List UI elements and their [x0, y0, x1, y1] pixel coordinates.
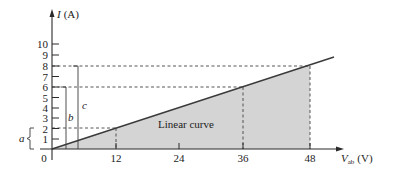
origin-label: 0 [41, 152, 47, 164]
y-tick-label-5: 5 [43, 92, 49, 104]
x-axis-label-unit: (V) [357, 152, 373, 165]
x-tick-label-48: 48 [305, 152, 317, 164]
label-c: c [82, 99, 87, 111]
curve-label: Linear curve [158, 118, 214, 130]
y-tick-label-8: 8 [43, 60, 49, 72]
bracket-c [73, 66, 78, 149]
x-axis-arrow-icon [336, 147, 344, 152]
x-tick-label-36: 36 [238, 152, 250, 164]
bracket-a [27, 128, 34, 149]
y-tick-label-2: 2 [43, 123, 49, 135]
label-a: a [19, 132, 25, 144]
y-tick-label-10: 10 [37, 38, 49, 50]
label-b: b [68, 111, 74, 123]
y-axis-label-unit: (A) [64, 8, 80, 21]
y-ticks [52, 44, 59, 139]
chart-canvas: 1 2 3 4 5 6 7 8 9 10 12 24 36 48 0 I(A) … [0, 0, 395, 172]
x-axis-label-sub: ab [348, 158, 355, 166]
y-tick-label-7: 7 [43, 71, 49, 83]
bracket-b [61, 87, 66, 149]
x-axis-label: Vab(V) [341, 152, 373, 166]
x-tick-label-24: 24 [174, 152, 186, 164]
y-tick-label-9: 9 [43, 49, 49, 61]
y-tick-label-6: 6 [43, 81, 49, 93]
x-tick-label-12: 12 [111, 152, 122, 164]
y-axis-label: I(A) [56, 8, 79, 21]
y-tick-label-1: 1 [43, 133, 49, 145]
y-axis-arrow-icon [50, 9, 55, 17]
y-axis-label-main: I [56, 8, 62, 20]
y-tick-label-4: 4 [43, 102, 49, 114]
